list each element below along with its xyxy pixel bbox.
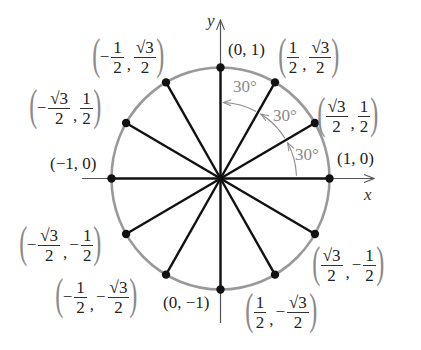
y-axis-label: y: [207, 12, 215, 29]
x-axis-label: x: [364, 186, 372, 203]
point-label-60deg: ( 12 , √32 ): [279, 35, 339, 79]
angle-label-30-first: 30°: [295, 146, 319, 163]
point-240deg: [162, 270, 170, 278]
x-fraction: √32: [326, 98, 348, 135]
point-120deg: [162, 78, 170, 86]
point-0deg: [325, 174, 333, 182]
point-180deg: [107, 174, 115, 182]
point-label-30deg: ( √32 , 12 ): [318, 94, 378, 138]
radius-line-210deg: [126, 179, 220, 235]
point-label-330deg: ( √32 , − 12 ): [313, 243, 384, 287]
radius-line-300deg: [221, 179, 276, 275]
angle-label-30-third: 30°: [233, 78, 257, 95]
point-270deg: [216, 285, 224, 293]
point-label-120deg: ( − 12 , √32 ): [93, 35, 164, 79]
radius-line-150deg: [126, 123, 220, 179]
point-label-210deg: ( − √32 , − 12 ): [20, 223, 101, 267]
right-paren: ): [371, 92, 379, 136]
left-paren: (: [317, 92, 325, 136]
point-210deg: [122, 230, 130, 238]
angle-label-30-second: 30°: [273, 107, 297, 124]
y-fraction: 12: [358, 98, 371, 135]
point-label-90deg: (0, 1): [228, 41, 265, 58]
point-300deg: [271, 270, 279, 278]
point-label-150deg: ( − √32 , 12 ): [30, 86, 101, 130]
point-330deg: [311, 230, 319, 238]
radius-line-240deg: [166, 179, 221, 275]
point-label-270deg: (0, −1): [163, 294, 209, 311]
radius-line-330deg: [221, 179, 315, 235]
point-label-240deg: ( − 12 , − √32 ): [56, 275, 137, 319]
angle-arc-3: [223, 103, 256, 112]
point-label-180deg: (−1, 0): [50, 155, 96, 172]
point-150deg: [122, 119, 130, 127]
point-label-300deg: ( 12 , − √32 ): [246, 290, 317, 334]
point-label-0deg: (1, 0): [337, 150, 374, 167]
origin-point: [218, 176, 224, 182]
point-60deg: [271, 78, 279, 86]
radius-line-120deg: [166, 82, 221, 178]
radius-line-60deg: [221, 82, 276, 178]
point-90deg: [216, 63, 224, 71]
